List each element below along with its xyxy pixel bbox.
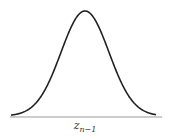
gaussian-diagram (0, 0, 170, 137)
axis-label: zn−1 (0, 119, 170, 134)
axis-label-subscript: n−1 (79, 125, 96, 134)
gaussian-curve (11, 11, 156, 115)
